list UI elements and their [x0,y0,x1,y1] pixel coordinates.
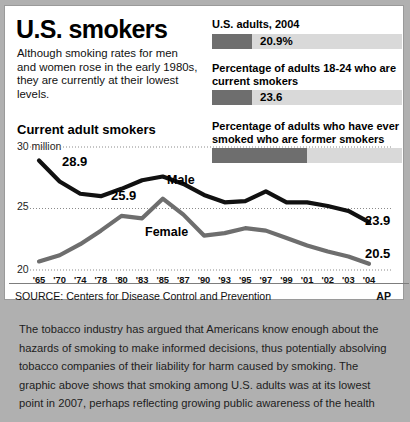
stat-label: U.S. adults, 2004 [212,18,402,31]
deck-text: Although smoking rates for men and women… [17,47,199,101]
stat-block-young-adults: Percentage of adults 18-24 who are curre… [212,62,402,105]
annotation-female-peak: 25.9 [111,188,136,203]
stat-bar-track: 20.9% [212,34,402,49]
source-divider [9,283,409,284]
series-label-female: Female [145,225,188,239]
series-label-male: Male [167,173,195,187]
graphic-card: U.S. smokers Although smoking rates for … [4,5,404,300]
annotation-male-start: 28.9 [62,154,87,169]
chart-title: Current adult smokers [17,122,156,137]
stat-bar-track: 23.6 [212,90,402,105]
stat-label: Percentage of adults 18-24 who are curre… [212,62,402,87]
infographic-root: U.S. smokers Although smoking rates for … [0,0,410,422]
caption-text: The tobacco industry has argued that Ame… [19,320,393,413]
annotation-male-end: 23.9 [365,213,390,228]
page-title: U.S. smokers [16,17,167,42]
annotation-female-end: 20.5 [365,246,390,261]
stat-bar-value: 20.9% [260,34,293,49]
x-axis: '65'70'74'78'80'83'85'87'90'93'95'97'99'… [5,274,405,288]
stat-block-us-adults: U.S. adults, 2004 20.9% [212,18,402,49]
stat-bar-fill [212,34,252,49]
stat-bar-value: 23.6 [260,90,282,105]
stat-bar-fill [212,90,252,105]
credit-ap: AP [376,290,391,302]
source-text: SOURCE: Centers for Disease Control and … [15,290,271,302]
